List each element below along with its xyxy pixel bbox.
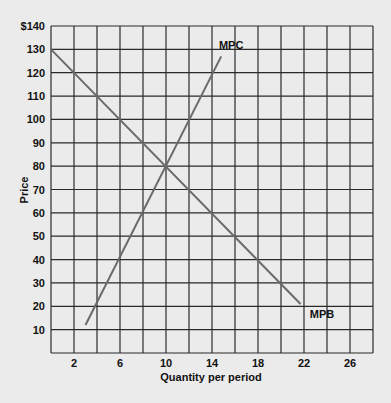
x-tick-label: 26 [344, 357, 356, 369]
x-tick-label: 22 [298, 357, 310, 369]
x-tick-label: 18 [252, 357, 264, 369]
y-axis-label: Price [18, 177, 30, 204]
y-tick-label: 110 [27, 90, 45, 102]
x-axis-label: Quantity per period [160, 371, 261, 383]
curve-mpb [51, 49, 301, 304]
y-tick-label: 80 [33, 160, 45, 172]
y-tick-label: 100 [27, 113, 45, 125]
y-tick-label: 120 [27, 67, 45, 79]
x-tick-label: 14 [206, 357, 219, 369]
y-tick-label: 50 [33, 230, 45, 242]
curves [51, 49, 301, 325]
y-tick-label: 90 [33, 137, 45, 149]
chart: 102030405060708090100110120130$140 26101… [0, 0, 391, 403]
y-tick-label: 10 [33, 324, 45, 336]
x-axis-ticks: 261014182226 [71, 357, 356, 369]
x-tick-label: 2 [71, 357, 77, 369]
y-tick-label: 40 [33, 254, 45, 266]
y-tick-label: $140 [21, 20, 45, 32]
y-tick-label: 70 [33, 184, 45, 196]
y-tick-label: 20 [33, 300, 45, 312]
curve-labels: MPCMPB [219, 39, 334, 320]
label-mpc: MPC [219, 39, 244, 51]
x-tick-label: 10 [160, 357, 172, 369]
label-mpb: MPB [310, 308, 335, 320]
y-tick-label: 130 [27, 43, 45, 55]
y-tick-label: 30 [33, 277, 45, 289]
x-tick-label: 6 [117, 357, 123, 369]
y-tick-label: 60 [33, 207, 45, 219]
